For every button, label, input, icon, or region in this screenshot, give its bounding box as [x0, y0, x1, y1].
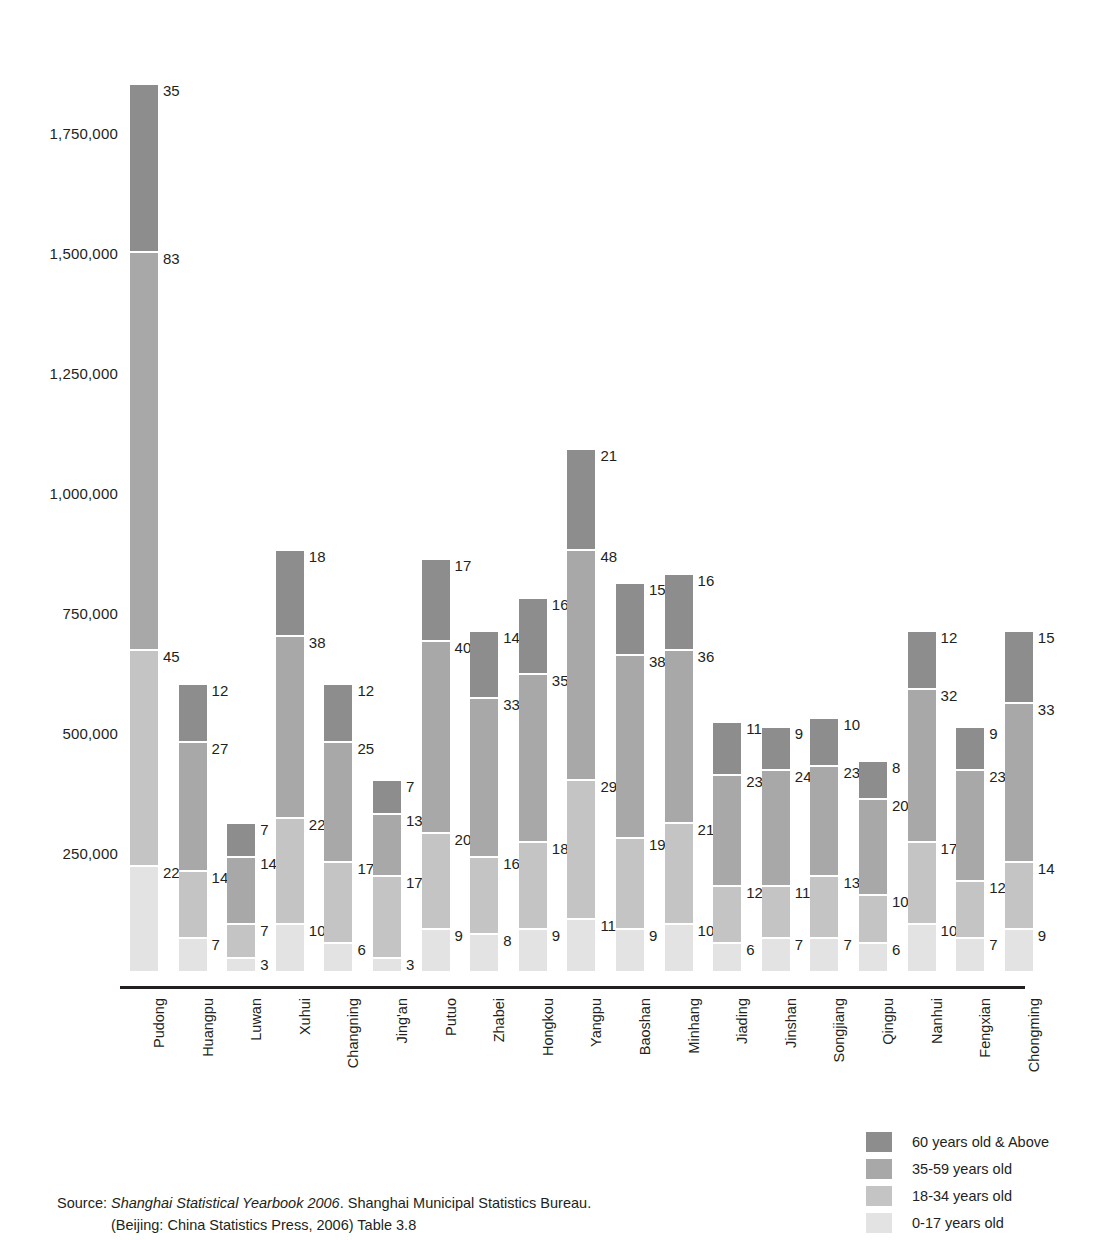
bar-value-label: 7	[406, 779, 414, 794]
bar-value-label: 15	[649, 582, 666, 597]
bar-value-label: 35	[552, 673, 569, 688]
bar-yangpu[interactable]: 11294821	[567, 0, 595, 973]
bar-value-label: 15	[1038, 630, 1055, 645]
x-axis-label-hongkou: Hongkou	[540, 998, 556, 1056]
bar-xuhui[interactable]: 10223818	[276, 0, 304, 973]
bar-segment: 9	[762, 728, 790, 769]
x-axis-label-jinshan: Jinshan	[783, 998, 799, 1048]
bar-segment: 33	[1005, 704, 1033, 860]
bar-value-label: 22	[309, 817, 326, 832]
bar-huangpu[interactable]: 7142712	[179, 0, 207, 973]
bar-value-label: 11	[795, 885, 811, 900]
bar-putuo[interactable]: 9204017	[422, 0, 450, 973]
x-axis-label-fengxian: Fengxian	[977, 998, 993, 1058]
bar-segment: 25	[324, 743, 352, 861]
bar-value-label: 33	[1038, 702, 1055, 717]
bar-segment: 10	[276, 925, 304, 971]
legend: 60 years old & Above35-59 years old18-34…	[866, 1128, 1106, 1236]
bar-value-label: 20	[892, 798, 909, 813]
bar-value-label: 33	[503, 697, 520, 712]
bar-pudong[interactable]: 22458335	[130, 0, 158, 973]
bar-value-label: 6	[892, 942, 900, 957]
bar-value-label: 7	[989, 937, 997, 952]
bar-segment: 17	[908, 843, 936, 923]
bar-value-label: 12	[989, 880, 1006, 895]
bar-segment: 27	[179, 743, 207, 871]
bar-value-label: 38	[309, 635, 326, 650]
bar-segment: 15	[1005, 632, 1033, 702]
bar-segment: 24	[762, 771, 790, 884]
bar-segment: 23	[810, 767, 838, 875]
bar-value-label: 9	[795, 726, 803, 741]
bar-segment: 21	[567, 450, 595, 549]
bar-value-label: 9	[989, 726, 997, 741]
bar-segment: 7	[179, 939, 207, 971]
bar-value-label: 14	[260, 856, 277, 871]
bar-value-label: 23	[989, 769, 1006, 784]
x-axis-line	[120, 986, 1025, 989]
bar-segment: 13	[810, 877, 838, 937]
bar-value-label: 16	[698, 573, 715, 588]
x-axis-label-baoshan: Baoshan	[637, 998, 653, 1055]
legend-item[interactable]: 60 years old & Above	[866, 1128, 1106, 1155]
bar-segment: 20	[859, 800, 887, 894]
bar-segment: 16	[470, 858, 498, 933]
bar-segment: 13	[373, 815, 401, 875]
bar-value-label: 17	[357, 861, 374, 876]
bar-segment: 6	[324, 944, 352, 971]
bar-segment: 14	[179, 872, 207, 937]
bar-value-label: 7	[212, 937, 220, 952]
x-axis-label-qingpu: Qingpu	[880, 998, 896, 1045]
bar-value-label: 9	[1038, 928, 1046, 943]
bar-chongming[interactable]: 9143315	[1005, 0, 1033, 973]
bar-changning[interactable]: 6172512	[324, 0, 352, 973]
bar-value-label: 16	[552, 597, 569, 612]
bar-hongkou[interactable]: 9183516	[519, 0, 547, 973]
bar-qingpu[interactable]: 610208	[859, 0, 887, 973]
legend-item[interactable]: 35-59 years old	[866, 1155, 1106, 1182]
bar-jiading[interactable]: 6122311	[713, 0, 741, 973]
bar-luwan[interactable]: 37147	[227, 0, 255, 973]
bar-segment: 7	[227, 925, 255, 957]
legend-item[interactable]: 0-17 years old	[866, 1209, 1106, 1236]
bar-minhang[interactable]: 10213616	[665, 0, 693, 973]
legend-item[interactable]: 18-34 years old	[866, 1182, 1106, 1209]
legend-label: 18-34 years old	[912, 1188, 1012, 1204]
bar-value-label: 13	[406, 813, 423, 828]
bar-value-label: 83	[163, 251, 180, 266]
bar-segment: 9	[616, 930, 644, 971]
bar-value-label: 3	[406, 957, 414, 972]
bar-zhabei[interactable]: 8163314	[470, 0, 498, 973]
bar-value-label: 21	[600, 448, 617, 463]
bar-value-label: 19	[649, 837, 666, 852]
bar-value-label: 23	[843, 765, 860, 780]
bar-fengxian[interactable]: 712239	[956, 0, 984, 973]
bar-segment: 29	[567, 781, 595, 918]
bar-songjiang[interactable]: 7132310	[810, 0, 838, 973]
bar-value-label: 8	[503, 933, 511, 948]
bar-segment: 8	[859, 762, 887, 798]
bar-jinshan[interactable]: 711249	[762, 0, 790, 973]
bar-value-label: 7	[843, 937, 851, 952]
bar-value-label: 10	[892, 894, 909, 909]
bar-value-label: 13	[843, 875, 860, 890]
bar-jing-an[interactable]: 317137	[373, 0, 401, 973]
bar-segment: 7	[373, 781, 401, 813]
bar-segment: 9	[519, 930, 547, 971]
bar-segment: 45	[130, 651, 158, 865]
bar-value-label: 35	[163, 83, 180, 98]
bar-value-label: 17	[941, 841, 958, 856]
bar-segment: 12	[908, 632, 936, 688]
bar-segment: 15	[616, 584, 644, 654]
bar-value-label: 12	[357, 683, 374, 698]
x-axis-label-chongming: Chongming	[1026, 998, 1042, 1072]
bar-value-label: 48	[600, 549, 617, 564]
bar-value-label: 38	[649, 654, 666, 669]
bar-baoshan[interactable]: 9193815	[616, 0, 644, 973]
bar-segment: 32	[908, 690, 936, 842]
legend-label: 0-17 years old	[912, 1215, 1004, 1231]
bar-segment: 14	[470, 632, 498, 697]
bar-nanhui[interactable]: 10173212	[908, 0, 936, 973]
legend-label: 60 years old & Above	[912, 1134, 1049, 1150]
bar-value-label: 24	[795, 769, 812, 784]
